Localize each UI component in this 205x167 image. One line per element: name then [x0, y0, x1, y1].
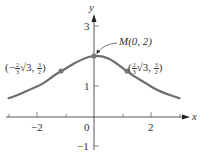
chart-canvas — [0, 0, 205, 167]
left-point-label: (−23√3, 32) — [5, 62, 46, 75]
max-point-label: M(0, 2) — [119, 36, 152, 47]
left-point-prefix: (− — [5, 61, 15, 73]
right-point-label: (23√3, 32) — [128, 62, 162, 75]
left-point-root: √3, — [20, 61, 37, 73]
y-axis-label: y — [89, 2, 94, 13]
left-point-close: ) — [42, 61, 46, 73]
tick-label-x-0: 0 — [84, 122, 90, 133]
y-ticks — [94, 26, 99, 146]
right-point-close: ) — [159, 61, 163, 73]
annotation-arrow — [98, 43, 117, 52]
tick-label-y-3: 3 — [84, 21, 90, 32]
y-axis-arrow-icon — [92, 14, 97, 22]
tick-label-y-neg1: −1 — [77, 141, 89, 152]
tick-label-x-neg2: −2 — [31, 122, 43, 133]
left-inflection-marker — [58, 68, 63, 73]
max-point-marker — [91, 53, 96, 58]
x-ticks — [9, 112, 180, 117]
tick-label-x-2: 2 — [148, 122, 154, 133]
right-point-root: √3, — [137, 61, 154, 73]
tick-label-y-1: 1 — [84, 81, 90, 92]
x-axis-label: x — [192, 111, 197, 122]
x-axis-arrow-icon — [182, 115, 190, 120]
